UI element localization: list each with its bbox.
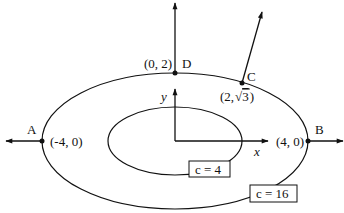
point-A-coord: (-4, 0)	[50, 134, 83, 149]
x-axis-label: x	[253, 144, 260, 159]
point-C-coord-sqrt: 3	[242, 89, 249, 104]
point-B-coord: (4, 0)	[276, 134, 304, 149]
point-C-dot	[240, 81, 245, 86]
point-B-dot	[306, 139, 311, 144]
point-C-coord: (2,√3)	[220, 89, 254, 104]
point-C-coord-prefix: (2,	[220, 89, 234, 104]
point-B-name: B	[315, 122, 324, 137]
point-C-name: C	[247, 69, 256, 84]
point-D-name: D	[182, 56, 191, 71]
point-D-coord: (0, 2)	[144, 56, 172, 71]
point-C-coord-suffix: )	[250, 89, 254, 104]
y-axis-label: y	[159, 89, 167, 104]
label-c4: c = 4	[195, 162, 222, 177]
point-A-dot	[40, 139, 45, 144]
point-D-dot	[173, 71, 178, 76]
diagram-canvas: D (0, 2) C (2,√3) A (-4, 0) B (4, 0) y x…	[0, 0, 344, 213]
level-curves-diagram: D (0, 2) C (2,√3) A (-4, 0) B (4, 0) y x…	[0, 0, 344, 213]
label-c16: c = 16	[256, 186, 289, 201]
point-A-name: A	[27, 122, 37, 137]
